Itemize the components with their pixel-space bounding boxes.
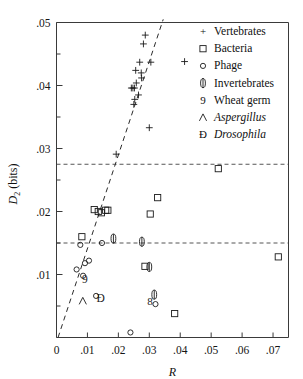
square-marker — [200, 46, 206, 52]
circle-marker — [74, 267, 79, 272]
plot-legend: +VertebratesBacteriaPhageInvertebrates9W… — [199, 25, 275, 141]
x-tick-label: .05 — [204, 344, 219, 356]
square-marker — [105, 207, 111, 213]
circle-marker — [82, 261, 87, 266]
legend-item-label: Aspergillus — [213, 111, 266, 124]
y-tick-label: .03 — [36, 143, 51, 155]
legend-item[interactable]: +Vertebrates — [200, 25, 266, 37]
x-tick-label: .02 — [111, 344, 126, 356]
series-drosophila: Ð — [97, 292, 105, 304]
data-point — [111, 234, 116, 243]
plus-marker — [146, 124, 153, 131]
data-point — [147, 59, 154, 66]
circle-marker — [128, 330, 133, 335]
circle-marker — [200, 63, 205, 68]
plus-marker — [133, 80, 140, 87]
reference-lines — [57, 164, 289, 243]
legend-item-label: Invertebrates — [214, 77, 275, 89]
data-point — [79, 297, 86, 304]
y-axis-title-text: D2 (bits) — [6, 163, 22, 205]
legend-glyph-marker — [200, 46, 206, 52]
plus-marker — [181, 58, 188, 65]
data-point — [103, 207, 109, 213]
data-point: 8 — [147, 295, 153, 307]
data-point — [153, 302, 158, 307]
data-point — [155, 195, 161, 201]
plus-marker — [138, 75, 145, 82]
plus-marker — [130, 101, 137, 108]
plus-marker — [147, 59, 154, 66]
legend-glyph-marker — [201, 79, 206, 88]
data-point — [135, 92, 142, 99]
data-point — [140, 41, 147, 48]
legend-item-label: Phage — [214, 59, 242, 72]
legend-item-label: Bacteria — [214, 42, 252, 54]
y-tick-label: .04 — [36, 80, 51, 92]
data-point — [172, 310, 178, 316]
data-point — [142, 32, 149, 39]
x-tick-label: .06 — [235, 344, 250, 356]
data-point — [136, 59, 143, 66]
legend-item[interactable]: Invertebrates — [201, 77, 275, 89]
data-point — [275, 254, 281, 260]
scatter-plot-figure: 0.01.02.03.04.05.06.07 .01.02.03.04.05 9… — [0, 0, 303, 379]
plot-border — [57, 23, 289, 338]
data-point — [215, 166, 221, 172]
data-point — [91, 207, 97, 213]
eight-marker: 8 — [147, 295, 153, 307]
legend-item[interactable]: 9Wheat germ — [200, 94, 270, 107]
caret-marker — [199, 114, 206, 121]
data-point — [113, 151, 120, 158]
plus-marker — [135, 92, 142, 99]
legend-item-label: Vertebrates — [214, 25, 266, 37]
square-marker — [79, 234, 85, 240]
data-point — [128, 330, 133, 335]
data-point — [139, 237, 144, 246]
nine-marker: 9 — [82, 273, 88, 285]
series-aspergillus — [79, 297, 86, 304]
legend-item[interactable]: ÐDrosophila — [199, 128, 266, 141]
legend-item[interactable]: Aspergillus — [199, 111, 266, 124]
legend-glyph-marker — [200, 63, 205, 68]
circle-marker — [153, 302, 158, 307]
square-marker — [91, 207, 97, 213]
series-yeast-pair: 8 — [147, 295, 153, 307]
regression-line — [58, 19, 163, 337]
data-point — [82, 261, 87, 266]
data-point — [74, 267, 79, 272]
series-wheat-germ: 9 — [82, 273, 88, 285]
data-point — [131, 85, 138, 92]
plus-marker — [140, 41, 147, 48]
legend-glyph-marker: + — [200, 25, 206, 37]
legend-item-label: Wheat germ — [214, 94, 271, 107]
legend-glyph-marker: Ð — [199, 128, 207, 140]
series-bacteria — [79, 166, 282, 317]
y-tick-label: .05 — [36, 17, 51, 29]
x-tick-label: .04 — [173, 344, 188, 356]
series-phage — [74, 240, 158, 335]
square-marker — [275, 254, 281, 260]
eth-marker: Ð — [97, 292, 105, 304]
legend-glyph-marker: 9 — [200, 94, 206, 106]
x-axis-title: R — [168, 365, 177, 379]
y-tick-label: .01 — [36, 269, 51, 281]
data-point — [146, 124, 153, 131]
data-point — [138, 75, 145, 82]
plot-canvas: 0.01.02.03.04.05.06.07 .01.02.03.04.05 9… — [0, 0, 303, 379]
legend-item-label: Drosophila — [213, 128, 266, 141]
plus-marker — [142, 32, 149, 39]
plus-marker — [131, 85, 138, 92]
plus-marker — [113, 151, 120, 158]
data-point — [147, 211, 153, 217]
plus-marker — [136, 59, 143, 66]
y-axis-title: D2 (bits) — [6, 163, 22, 205]
y-tick-label: .02 — [36, 206, 51, 218]
x-tick-label: 0 — [54, 344, 60, 356]
data-point — [79, 234, 85, 240]
legend-item[interactable]: Phage — [200, 59, 242, 72]
legend-item[interactable]: Bacteria — [200, 42, 252, 54]
x-tick-label: .03 — [142, 344, 157, 356]
y-axis-ticks: .01.02.03.04.05 — [36, 17, 62, 307]
axis-frame — [57, 23, 289, 338]
x-tick-label: .07 — [266, 344, 281, 356]
